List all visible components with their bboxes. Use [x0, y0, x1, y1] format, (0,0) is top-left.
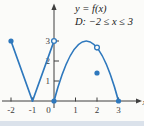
closed-point [94, 70, 99, 75]
open-point [95, 45, 100, 50]
y-tick-label: 1 [46, 76, 51, 86]
x-tick-label: -2 [7, 105, 15, 115]
function-label: y = f(x) [75, 2, 133, 15]
x-tick-label: 3 [116, 105, 121, 115]
closed-point [8, 38, 13, 43]
figure-piecewise-function-graph: -2-10123123x y = f(x) D: −2 ≤ x ≤ 3 [0, 0, 144, 126]
closed-point [116, 98, 121, 103]
y-axis-arrow-icon [51, 4, 56, 11]
x-axis-letter: x [142, 97, 145, 107]
x-tick-label: 0 [46, 105, 51, 115]
x-tick-label: -1 [29, 105, 37, 115]
closed-point [51, 98, 56, 103]
y-tick-label: 3 [46, 36, 51, 46]
x-tick-label: 2 [95, 105, 100, 115]
open-point [52, 39, 57, 44]
curve-parabola [54, 41, 119, 101]
bottom-band [0, 121, 144, 126]
x-tick-label: 1 [73, 105, 78, 115]
x-axis-arrow-icon [136, 98, 142, 103]
graph-annotation: y = f(x) D: −2 ≤ x ≤ 3 [75, 2, 133, 28]
domain-label: D: −2 ≤ x ≤ 3 [75, 15, 133, 28]
curve-line [33, 41, 55, 101]
curve-line [11, 41, 33, 101]
